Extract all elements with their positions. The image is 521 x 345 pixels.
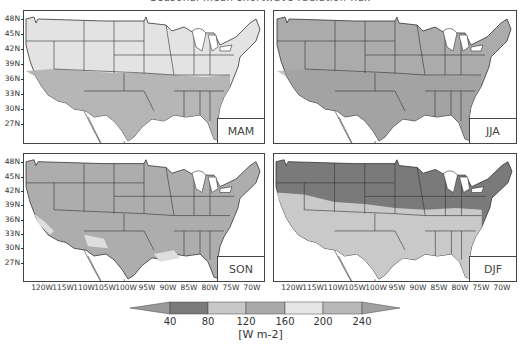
- colorbar-tick: 200: [308, 316, 338, 327]
- colorbar-unit-label: [W m-2]: [0, 328, 521, 341]
- lat-label: 39N: [0, 59, 20, 68]
- lon-label: 70W: [487, 283, 517, 292]
- map-panel-son: SON: [23, 153, 265, 282]
- map-panel-djf: DJF: [273, 153, 517, 282]
- lat-label: 33N: [0, 89, 20, 98]
- colorbar-tick: 80: [193, 316, 223, 327]
- lat-label: 27N: [0, 258, 20, 267]
- lat-label: 42N: [0, 44, 20, 53]
- season-label-son: SON: [217, 256, 264, 281]
- lat-label: 27N: [0, 119, 20, 128]
- map-panel-mam: MAM: [23, 10, 265, 144]
- lat-label: 48N: [0, 14, 20, 23]
- season-label-jja: JJA: [469, 118, 516, 143]
- colorbar: [130, 301, 400, 315]
- lat-label: 30N: [0, 104, 20, 113]
- lat-label: 36N: [0, 74, 20, 83]
- lat-label: 30N: [0, 243, 20, 252]
- colorbar-tick: 120: [231, 316, 261, 327]
- lat-label: 36N: [0, 215, 20, 224]
- colorbar-tick: 40: [155, 316, 185, 327]
- lat-label: 42N: [0, 186, 20, 195]
- lat-label: 39N: [0, 200, 20, 209]
- lat-label: 33N: [0, 229, 20, 238]
- colorbar-tick: 160: [270, 316, 300, 327]
- lat-label: 48N: [0, 157, 20, 166]
- colorbar-tick: 240: [347, 316, 377, 327]
- map-panel-jja: JJA: [273, 10, 517, 144]
- lat-label: 45N: [0, 29, 20, 38]
- lat-label: 45N: [0, 172, 20, 181]
- figure-title: Seasonal mean shortwave radiation flux: [0, 0, 521, 3]
- lon-label: 70W: [237, 283, 267, 292]
- season-label-mam: MAM: [217, 118, 264, 143]
- season-label-djf: DJF: [469, 256, 516, 281]
